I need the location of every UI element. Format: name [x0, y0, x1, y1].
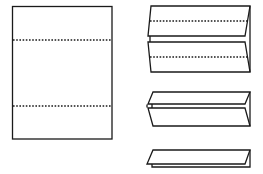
folded-in-sheet: [147, 92, 250, 126]
partially-folded-sheet: [148, 6, 250, 72]
folded-strip: [147, 150, 250, 167]
folding-diagram: [0, 0, 263, 174]
bottom-flap: [148, 108, 250, 126]
strip-top-layer: [147, 150, 250, 164]
flat-sheet: [13, 7, 113, 140]
top-flap: [148, 92, 250, 104]
sheet-outline: [13, 7, 113, 140]
